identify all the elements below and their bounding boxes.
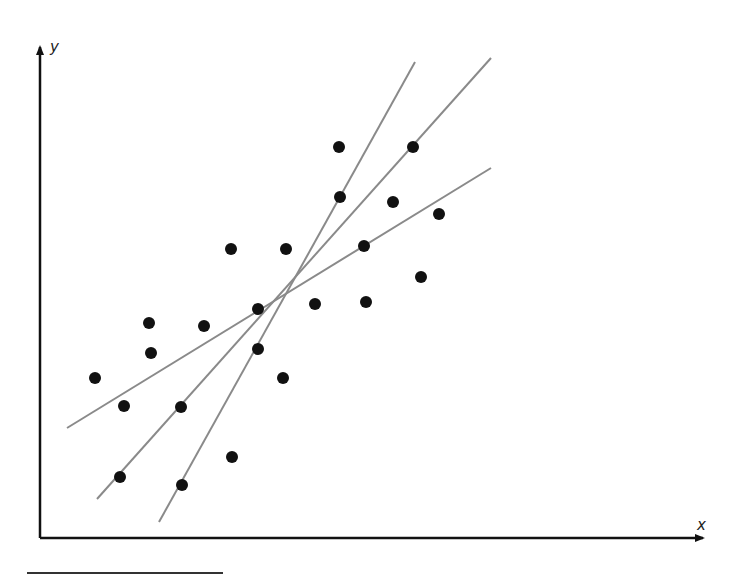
data-point xyxy=(433,208,445,220)
data-point xyxy=(225,243,237,255)
data-point xyxy=(118,400,130,412)
data-point xyxy=(252,303,264,315)
data-point xyxy=(114,471,126,483)
data-point xyxy=(252,343,264,355)
data-point xyxy=(360,296,372,308)
data-point xyxy=(415,271,427,283)
data-point xyxy=(407,141,419,153)
data-point xyxy=(309,298,321,310)
data-point xyxy=(358,240,370,252)
data-point xyxy=(145,347,157,359)
data-point xyxy=(334,191,346,203)
data-point xyxy=(176,479,188,491)
y-axis-label: y xyxy=(50,38,59,56)
data-point xyxy=(387,196,399,208)
data-point xyxy=(143,317,155,329)
data-point xyxy=(198,320,210,332)
data-point xyxy=(277,372,289,384)
steep-fit-line xyxy=(159,62,415,522)
data-point xyxy=(175,401,187,413)
data-points xyxy=(89,141,445,491)
data-point xyxy=(333,141,345,153)
x-axis-label: x xyxy=(697,516,706,534)
regression-lines xyxy=(67,58,491,522)
scatter-plot xyxy=(0,0,738,578)
shallow-fit-line xyxy=(67,168,491,428)
data-point xyxy=(280,243,292,255)
footnote-divider xyxy=(27,572,223,574)
data-point xyxy=(226,451,238,463)
data-point xyxy=(89,372,101,384)
